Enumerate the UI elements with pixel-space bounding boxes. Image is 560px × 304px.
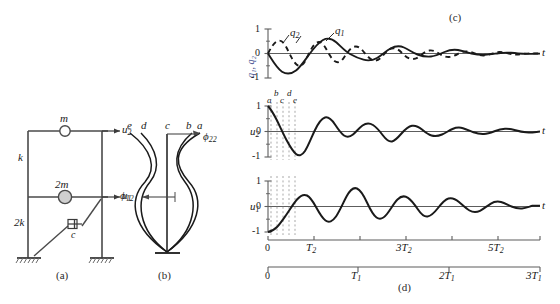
panel-tag-b: (b) — [158, 270, 171, 281]
plot-u2 — [265, 102, 541, 160]
event-letter-d: d — [287, 89, 292, 98]
T2-tick-0: 0 — [265, 243, 270, 253]
T2-tick-1: T2 — [306, 242, 316, 255]
u1-curve — [268, 188, 540, 232]
axis-T2 — [268, 236, 540, 240]
q-ytick-top: 1 — [255, 24, 260, 34]
damper-label: c — [71, 230, 75, 240]
event-letter-a: a — [267, 96, 272, 105]
support-right — [89, 258, 114, 263]
stiffness-bottom-label: 2k — [14, 217, 24, 228]
u2-ytick-top: 1 — [256, 101, 261, 111]
phi22-label: ϕ22 — [203, 131, 217, 144]
u2-ytick-zero: 0 — [256, 126, 261, 136]
q-ytick-bottom: -1 — [251, 72, 259, 82]
modeshape-letter-b: b — [186, 120, 192, 131]
plot-u1 — [265, 176, 541, 272]
q-xaxis-label: t — [542, 47, 545, 58]
event-letter-c: c — [280, 96, 284, 105]
panel-tag-d: (d) — [398, 282, 411, 293]
T2-tick-3: 3T2 — [396, 242, 412, 255]
figure-root: m 2m k 2k c u2 u1 (a) e d c b a ϕ22 ϕ12 … — [0, 0, 560, 304]
modeshape-letter-c: c — [165, 120, 170, 131]
panel-tag-c: (c) — [449, 12, 461, 23]
u1-xaxis-label: t — [542, 200, 545, 211]
T2-tick-5: 5T2 — [488, 242, 504, 255]
phi22-measure — [167, 131, 200, 136]
q-ytick-zero: 0 — [255, 48, 260, 58]
phi12-label: ϕ12 — [120, 190, 134, 203]
modeshape-letter-a: a — [197, 120, 203, 131]
u2-xaxis-label: t — [542, 125, 545, 136]
mass-mid-circle — [58, 190, 71, 203]
mass-top-label: m — [60, 113, 68, 124]
u1-ytick-top: 1 — [256, 176, 261, 186]
u2-ytick-bottom: -1 — [252, 151, 260, 161]
q1-curve — [268, 39, 540, 74]
T1-tick-3: 3T1 — [526, 270, 542, 283]
dof-arrow-u1 — [102, 194, 120, 199]
panel-tag-a: (a) — [56, 270, 68, 281]
T1-tick-0: 0 — [265, 271, 270, 281]
u1-ytick-bottom: -1 — [252, 226, 260, 236]
q2-annotation: q2 — [290, 27, 299, 40]
frame-diagram — [16, 126, 120, 263]
modeshape-letter-d: d — [141, 120, 147, 131]
stiffness-top-label: k — [18, 152, 23, 163]
modeshape-curve-d — [141, 133, 167, 252]
T1-tick-1: T1 — [351, 270, 361, 283]
support-left — [16, 258, 41, 263]
dashpot-symbol — [68, 220, 82, 229]
u2-curve — [268, 106, 540, 155]
mass-mid-label: 2m — [55, 179, 68, 190]
dof-arrow-u2 — [102, 128, 120, 133]
u1-ytick-zero: 0 — [256, 201, 261, 211]
modeshape-curve-e — [130, 133, 167, 252]
damper-brace-upper — [82, 199, 101, 226]
damper-brace-lower — [34, 226, 68, 256]
modeshape-diagram — [130, 131, 200, 253]
q1-annotation: q1 — [335, 25, 344, 38]
modeshape-letter-e: e — [127, 120, 132, 131]
event-letter-e: e — [293, 96, 297, 105]
phi12-measure — [142, 192, 175, 202]
figure-canvas — [0, 0, 560, 304]
mass-top-circle — [60, 126, 70, 136]
event-letter-b: b — [274, 89, 279, 98]
plot-modal-coordinates — [265, 29, 541, 78]
axis-T1 — [268, 267, 540, 272]
T1-tick-2: 2T1 — [439, 270, 455, 283]
